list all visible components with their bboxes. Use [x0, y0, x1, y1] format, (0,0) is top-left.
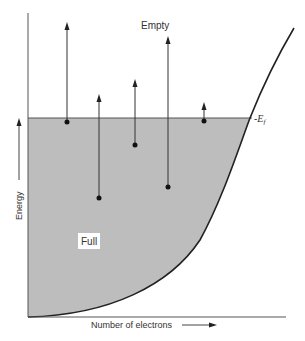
y-axis-label: Energy [14, 191, 24, 220]
electron-dot [202, 119, 207, 124]
electron-dot [65, 120, 70, 125]
electron-dot [133, 143, 138, 148]
fermi-subscript: f [263, 118, 266, 126]
arrow-up-icon [97, 94, 102, 102]
arrow-up-icon [65, 22, 70, 30]
energy-arrow-icon [17, 118, 22, 126]
arrow-up-icon [133, 79, 138, 87]
full-label: Full [81, 236, 97, 247]
arrow-up-icon [166, 36, 171, 44]
fermi-diagram: Empty Full -Ef Energy Number of electron… [0, 0, 305, 341]
electron-dot [166, 185, 171, 190]
electrons-arrow-icon [209, 323, 217, 328]
x-axis-label: Number of electrons [91, 320, 173, 330]
empty-label: Empty [141, 20, 169, 31]
filled-states-region [28, 118, 250, 317]
electron-dot [97, 196, 102, 201]
fermi-symbol: E [256, 113, 263, 124]
electron-excitation-1 [65, 22, 70, 125]
arrow-up-icon [202, 102, 207, 110]
fermi-level-label: -Ef [254, 113, 266, 126]
electron-excitation-5 [202, 102, 207, 124]
